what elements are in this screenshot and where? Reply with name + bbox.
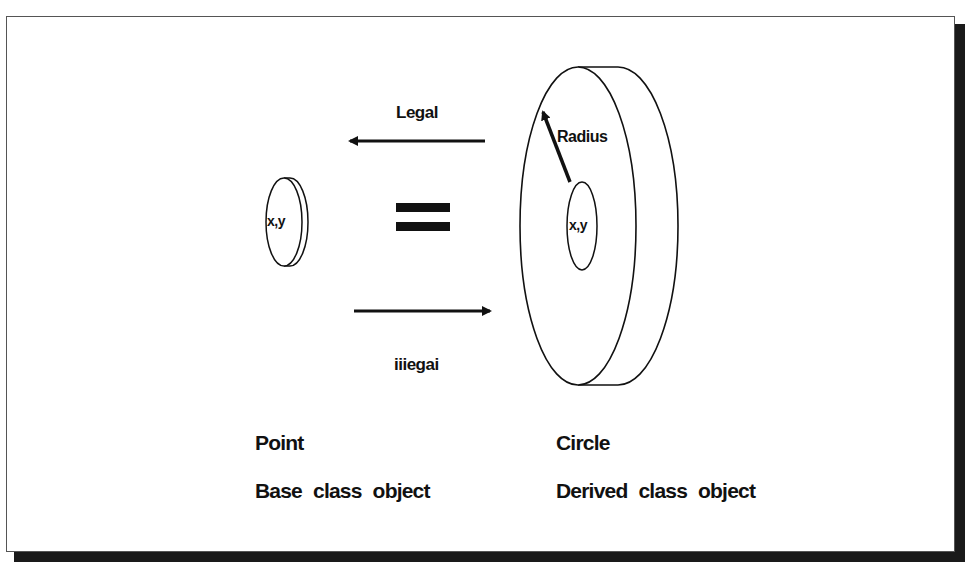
point-name: Point <box>255 431 304 455</box>
illegal-label: iiiegai <box>394 355 439 375</box>
circle-description: Derived class object <box>556 479 755 503</box>
legal-label: Legal <box>396 103 438 123</box>
equals-icon <box>396 203 450 231</box>
point-description: Base class object <box>255 479 430 503</box>
radius-label: Radius <box>557 128 607 146</box>
diagram-canvas <box>0 0 974 584</box>
point-center-label: x,y <box>267 213 285 229</box>
circle-center-label: x,y <box>569 217 587 233</box>
circle-name: Circle <box>556 431 610 455</box>
